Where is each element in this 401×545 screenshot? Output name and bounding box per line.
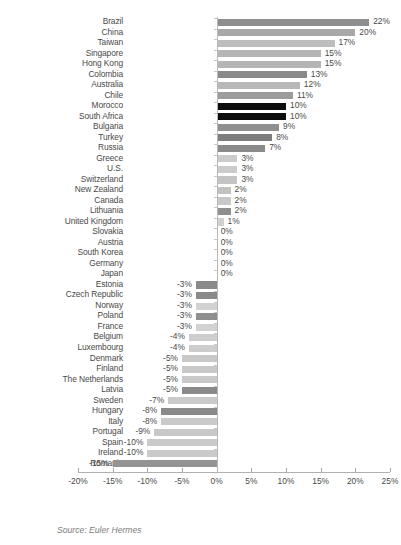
value-label: 8% bbox=[276, 132, 288, 143]
bar bbox=[182, 376, 217, 383]
bar bbox=[217, 155, 238, 162]
category-label: Portugal bbox=[0, 426, 123, 437]
bar bbox=[196, 281, 217, 288]
category-label: Hong Kong bbox=[0, 58, 123, 69]
value-label: 2% bbox=[235, 205, 247, 216]
bar bbox=[217, 166, 238, 173]
value-label: -8% bbox=[142, 416, 157, 427]
axis-tick bbox=[78, 468, 79, 472]
bar bbox=[217, 92, 293, 99]
category-label: Italy bbox=[0, 416, 123, 427]
bar bbox=[217, 103, 286, 110]
value-label: -4% bbox=[170, 342, 185, 353]
category-label: The Netherlands bbox=[0, 374, 123, 385]
bar bbox=[196, 313, 217, 320]
value-label: -3% bbox=[177, 310, 192, 321]
axis-tick-label: 25% bbox=[382, 476, 399, 486]
category-label: Norway bbox=[0, 300, 123, 311]
category-label: Poland bbox=[0, 310, 123, 321]
value-label: 0% bbox=[221, 247, 233, 258]
axis-tick-label: -5% bbox=[175, 476, 190, 486]
bar bbox=[182, 387, 217, 394]
value-label: -3% bbox=[177, 300, 192, 311]
axis-tick-label: 0% bbox=[211, 476, 223, 486]
value-label: 0% bbox=[221, 226, 233, 237]
plot-area: Brazil22%China20%Taiwan17%Singapore15%Ho… bbox=[0, 17, 401, 469]
bar bbox=[154, 429, 216, 436]
value-label: 2% bbox=[235, 195, 247, 206]
value-label: 0% bbox=[221, 258, 233, 269]
category-label: New Zealand bbox=[0, 184, 123, 195]
axis-tick bbox=[113, 468, 114, 472]
bar bbox=[217, 124, 279, 131]
value-label: -5% bbox=[163, 363, 178, 374]
value-label: -5% bbox=[163, 374, 178, 385]
bar bbox=[217, 19, 370, 26]
bar bbox=[217, 29, 356, 36]
value-label: 22% bbox=[373, 16, 390, 27]
bar bbox=[113, 460, 217, 467]
value-label: 3% bbox=[241, 174, 253, 185]
category-label: Czech Republic bbox=[0, 289, 123, 300]
axis-tick bbox=[390, 468, 391, 472]
bar bbox=[168, 397, 217, 404]
category-label: U.S. bbox=[0, 163, 123, 174]
value-label: 15% bbox=[325, 48, 342, 59]
value-label: 1% bbox=[228, 216, 240, 227]
value-label: -3% bbox=[177, 279, 192, 290]
bar bbox=[217, 208, 231, 215]
axis-tick-label: -20% bbox=[68, 476, 88, 486]
axis-tick bbox=[251, 468, 252, 472]
bar bbox=[217, 197, 231, 204]
value-label: 12% bbox=[304, 79, 321, 90]
category-label: Sweden bbox=[0, 395, 123, 406]
category-label: Canada bbox=[0, 195, 123, 206]
category-label: Greece bbox=[0, 153, 123, 164]
value-label: -5% bbox=[163, 353, 178, 364]
category-label: Singapore bbox=[0, 48, 123, 59]
bar bbox=[161, 418, 216, 425]
category-label: Estonia bbox=[0, 279, 123, 290]
value-label: 15% bbox=[325, 58, 342, 69]
category-label: South Africa bbox=[0, 111, 123, 122]
axis-tick bbox=[286, 468, 287, 472]
category-label: Japan bbox=[0, 268, 123, 279]
axis-tick-label: 15% bbox=[312, 476, 329, 486]
category-label: Ireland bbox=[0, 447, 123, 458]
value-label: -5% bbox=[163, 384, 178, 395]
value-label: -4% bbox=[170, 331, 185, 342]
axis-tick-label: 20% bbox=[347, 476, 364, 486]
value-label: 17% bbox=[339, 37, 356, 48]
category-label: Turkey bbox=[0, 132, 123, 143]
value-label: -3% bbox=[177, 321, 192, 332]
value-label: -9% bbox=[135, 426, 150, 437]
bar bbox=[182, 366, 217, 373]
category-label: Hungary bbox=[0, 405, 123, 416]
bar bbox=[147, 439, 216, 446]
value-label: -10% bbox=[124, 447, 144, 458]
chart-title-remnant bbox=[0, 0, 401, 6]
value-label: 20% bbox=[359, 27, 376, 38]
axis-tick bbox=[147, 468, 148, 472]
source-note: Source: Euler Hermes bbox=[57, 525, 142, 535]
value-label: 3% bbox=[241, 153, 253, 164]
value-label: -8% bbox=[142, 405, 157, 416]
bar bbox=[217, 61, 321, 68]
category-label: Australia bbox=[0, 79, 123, 90]
bar bbox=[196, 292, 217, 299]
bar bbox=[147, 450, 216, 457]
category-label: Austria bbox=[0, 237, 123, 248]
axis-tick bbox=[321, 468, 322, 472]
category-label: Brazil bbox=[0, 16, 123, 27]
category-label: Lithuania bbox=[0, 205, 123, 216]
value-label: -15% bbox=[89, 458, 109, 469]
category-label: Luxembourg bbox=[0, 342, 123, 353]
bar bbox=[217, 40, 335, 47]
bar-chart: Brazil22%China20%Taiwan17%Singapore15%Ho… bbox=[0, 0, 401, 545]
category-label: Chile bbox=[0, 90, 123, 101]
bar bbox=[182, 355, 217, 362]
value-label: 3% bbox=[241, 163, 253, 174]
axis-tick-label: 5% bbox=[245, 476, 257, 486]
value-label: -3% bbox=[177, 289, 192, 300]
axis-tick bbox=[355, 468, 356, 472]
